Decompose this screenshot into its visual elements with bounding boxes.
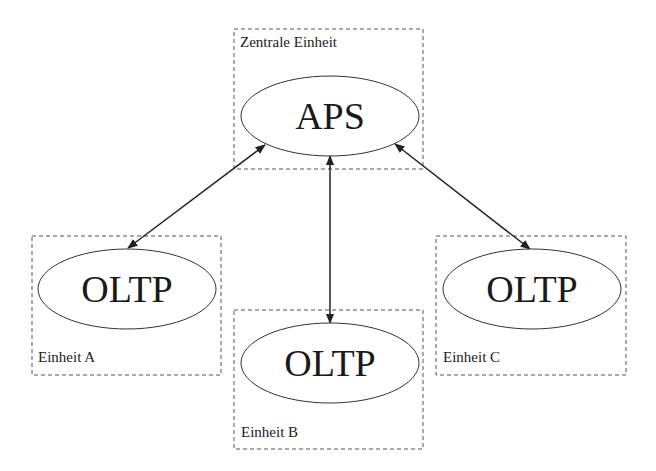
node-oltp-c-label: OLTP xyxy=(486,268,578,310)
architecture-diagram: Zentrale Einheit Einheit A Einheit B Ein… xyxy=(0,0,656,471)
unit-einheit-b-label: Einheit B xyxy=(241,424,298,440)
node-oltp-c: OLTP xyxy=(443,249,621,329)
node-aps-label: APS xyxy=(295,95,365,137)
node-oltp-b-label: OLTP xyxy=(284,342,376,384)
node-oltp-a: OLTP xyxy=(38,249,216,329)
unit-einheit-c-label: Einheit C xyxy=(443,349,500,365)
node-oltp-a-label: OLTP xyxy=(81,268,173,310)
edge-aps-oltp-c xyxy=(395,144,530,249)
unit-zentrale-einheit-label: Zentrale Einheit xyxy=(240,34,338,50)
node-oltp-b: OLTP xyxy=(241,323,419,403)
edge-aps-oltp-a xyxy=(128,145,265,248)
node-aps: APS xyxy=(241,76,419,156)
unit-einheit-a-label: Einheit A xyxy=(38,349,95,365)
